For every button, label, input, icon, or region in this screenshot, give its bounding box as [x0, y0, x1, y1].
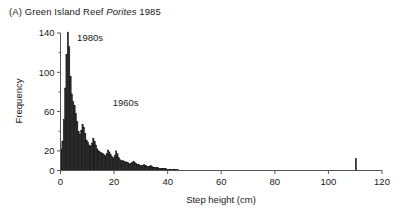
histogram-bar — [83, 127, 84, 170]
histogram-bar — [137, 165, 138, 171]
histogram-bar — [114, 156, 115, 171]
histogram-bar — [99, 152, 100, 171]
histogram-bar — [89, 145, 90, 171]
x-axis-ticks: 020406080100120 — [58, 171, 390, 187]
histogram-bar — [82, 124, 83, 170]
histogram-bar — [70, 76, 71, 170]
y-axis-title: Frequency — [13, 78, 24, 123]
histogram-bar — [149, 167, 150, 171]
histogram-bar — [95, 145, 96, 171]
histogram-bar — [85, 133, 86, 170]
x-axis-tick-label: 100 — [320, 176, 336, 187]
histogram-bar — [122, 161, 123, 171]
histogram-bar — [67, 32, 68, 170]
y-axis-tick-label: 0 — [49, 165, 54, 176]
histogram-bar — [355, 159, 356, 171]
histogram-bars — [61, 32, 357, 170]
chart-annotations: 1980s1960s — [77, 32, 139, 108]
histogram-bar — [113, 158, 114, 171]
histogram-bar — [142, 166, 143, 171]
histogram-bar — [127, 163, 128, 171]
histogram-bar — [109, 152, 110, 171]
histogram-bar — [103, 155, 104, 171]
histogram-bar — [134, 163, 135, 171]
histogram-bar — [141, 166, 142, 171]
histogram-bar — [110, 155, 111, 171]
histogram-bar — [119, 160, 120, 171]
histogram-bar — [65, 88, 66, 171]
y-axis-tick-label: 100 — [39, 67, 55, 78]
histogram-bar — [136, 164, 137, 171]
x-axis-tick-label: 120 — [374, 176, 390, 187]
histogram-chart: 02060100140 020406080100120 Frequency St… — [0, 0, 401, 214]
histogram-bar — [94, 141, 95, 170]
histogram-bar — [117, 154, 118, 171]
x-axis-tick-label: 80 — [270, 176, 281, 187]
histogram-bar — [90, 146, 91, 171]
y-axis-ticks: 02060100140 — [39, 27, 61, 176]
x-axis-tick-label: 20 — [109, 176, 120, 187]
histogram-bar — [77, 121, 78, 170]
histogram-bar — [79, 134, 80, 170]
histogram-bar — [133, 162, 134, 171]
x-axis-tick-label: 0 — [58, 176, 63, 187]
y-axis-tick-label: 60 — [44, 106, 55, 117]
histogram-bar — [125, 162, 126, 171]
y-axis-tick-label: 140 — [39, 27, 55, 38]
histogram-bar — [111, 157, 112, 171]
x-axis-tick-label: 40 — [162, 176, 173, 187]
chart-annotation-label: 1960s — [113, 97, 139, 108]
histogram-bar — [91, 143, 92, 171]
histogram-bar — [71, 94, 72, 171]
histogram-bar — [138, 165, 139, 171]
x-axis-title: Step height (cm) — [186, 194, 256, 205]
histogram-bar — [87, 142, 88, 170]
histogram-bar — [69, 47, 70, 171]
histogram-bar — [73, 102, 74, 171]
histogram-bar — [75, 114, 76, 171]
histogram-bar — [66, 55, 67, 171]
histogram-bar — [130, 164, 131, 171]
histogram-bar — [62, 141, 63, 170]
histogram-bar — [93, 138, 94, 170]
histogram-bar — [150, 166, 151, 171]
histogram-bar — [123, 162, 124, 171]
histogram-bar — [74, 106, 75, 171]
histogram-bar — [63, 119, 64, 170]
y-axis-tick-label: 20 — [44, 145, 55, 156]
histogram-bar — [107, 150, 108, 171]
histogram-bar — [152, 167, 153, 171]
figure-panel: (A) Green Island Reef Porites 1985 02060… — [0, 0, 401, 214]
histogram-bar — [146, 167, 147, 171]
histogram-bar — [121, 161, 122, 171]
histogram-bar — [145, 166, 146, 171]
histogram-bar — [132, 163, 133, 171]
histogram-bar — [144, 165, 145, 171]
histogram-bar — [118, 158, 119, 171]
histogram-bar — [115, 151, 116, 171]
histogram-bar — [98, 151, 99, 171]
histogram-bar — [148, 167, 149, 171]
histogram-bar — [140, 166, 141, 171]
chart-annotation-label: 1980s — [77, 32, 103, 43]
histogram-bar — [102, 154, 103, 171]
x-axis-tick-label: 60 — [216, 176, 227, 187]
histogram-bar — [126, 163, 127, 171]
histogram-bar — [105, 156, 106, 171]
histogram-bar — [78, 131, 79, 170]
histogram-bar — [86, 140, 87, 170]
histogram-bar — [81, 130, 82, 170]
histogram-bar — [106, 154, 107, 171]
histogram-bar — [129, 164, 130, 171]
histogram-bar — [97, 149, 98, 171]
histogram-bar — [101, 153, 102, 171]
